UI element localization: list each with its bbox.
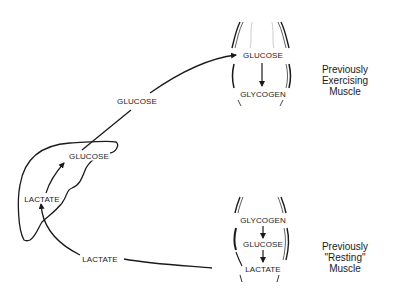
lower-muscle-caption-line2: Muscle xyxy=(314,263,377,274)
glucose-transport-label: GLUCOSE xyxy=(116,97,158,106)
lactate-transport-line-right xyxy=(124,259,212,268)
upper-muscle-caption-line2: Muscle xyxy=(314,86,377,97)
lower-muscle-glycogen-label: GLYCOGEN xyxy=(239,216,287,225)
lower-muscle-lactate-label: LACTATE xyxy=(244,265,282,274)
upper-muscle-caption-line1: Previously Exercising xyxy=(314,64,377,86)
upper-muscle-glycogen-label: GLYCOGEN xyxy=(239,90,287,99)
upper-muscle-glucose-label: GLUCOSE xyxy=(242,51,284,60)
glucose-transport-arrow xyxy=(150,55,236,93)
liver-glucose-label: GLUCOSE xyxy=(68,152,110,161)
liver-lactate-label: LACTATE xyxy=(23,195,61,204)
upper-muscle-caption: Previously Exercising Muscle xyxy=(314,64,377,97)
lower-muscle-caption: Previously "Resting" Muscle xyxy=(314,241,377,274)
liver-lactate-to-glucose-arrow xyxy=(46,163,64,193)
glucose-transport-line-lower xyxy=(82,110,131,150)
lactate-transport-arrow xyxy=(41,204,80,255)
lower-muscle-glucose-label: GLUCOSE xyxy=(242,240,284,249)
lower-muscle-caption-line1: Previously "Resting" xyxy=(314,241,377,263)
lactate-transport-label: LACTATE xyxy=(81,255,119,264)
